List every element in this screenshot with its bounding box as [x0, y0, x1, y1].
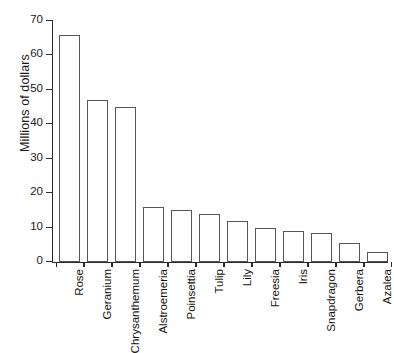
bar — [59, 35, 80, 262]
x-tick-label-text: Azalea — [381, 269, 393, 304]
y-tick: 30 — [46, 158, 52, 159]
y-tick: 60 — [46, 54, 52, 55]
x-tick-label-text: Gerbera — [353, 269, 365, 311]
x-tick-label-text: Tulip — [213, 269, 225, 294]
y-tick-label: 10 — [30, 220, 43, 232]
x-tick-label-text: Lily — [241, 269, 253, 286]
x-tick-label: Gerbera — [353, 227, 365, 269]
x-tick-label-text: Geranium — [101, 269, 113, 320]
x-tick-label: Chrysanthemum — [129, 185, 141, 269]
plot-area: 010203040506070 RoseGeraniumChrysanthemu… — [52, 21, 388, 262]
y-axis-line — [52, 20, 53, 263]
y-tick-label: 60 — [30, 47, 43, 59]
x-tick-label-text: Alstroemeria — [157, 269, 169, 334]
x-tick-label-text: Snapdragon — [325, 269, 337, 332]
y-tick-label: 40 — [30, 116, 43, 128]
y-tick: 40 — [46, 123, 52, 124]
y-tick: 20 — [46, 192, 52, 193]
y-tick: 10 — [46, 227, 52, 228]
y-tick-label: 70 — [30, 13, 43, 25]
x-tick-label: Azalea — [381, 234, 393, 269]
x-tick-label-text: Iris — [297, 269, 309, 284]
x-tick-label: Poinsettia — [185, 218, 197, 269]
x-tick-label: Alstroemeria — [157, 204, 169, 269]
x-tick-label: Lily — [241, 252, 253, 269]
y-tick-label: 50 — [30, 82, 43, 94]
x-tick-label: Freesia — [269, 231, 281, 269]
x-tick-label: Iris — [297, 254, 309, 269]
bar-chart: Millions of dollars 010203040506070 Rose… — [0, 0, 394, 353]
y-tick: 70 — [46, 20, 52, 21]
x-tick — [56, 262, 57, 267]
x-tick-label-text: Rose — [73, 269, 85, 296]
y-tick-label: 20 — [30, 185, 43, 197]
x-tick-label-text: Chrysanthemum — [129, 269, 141, 353]
x-tick-label: Rose — [73, 242, 85, 269]
x-tick-label: Snapdragon — [325, 206, 337, 269]
x-tick-label: Geranium — [101, 219, 113, 270]
x-tick-label: Tulip — [213, 245, 225, 270]
y-tick: 0 — [46, 261, 52, 262]
y-tick: 50 — [46, 89, 52, 90]
y-axis-title: Millions of dollars — [18, 8, 32, 198]
x-tick-label-text: Poinsettia — [185, 269, 197, 320]
y-tick-label: 30 — [30, 151, 43, 163]
y-tick-label: 0 — [37, 254, 43, 266]
x-tick-label-text: Freesia — [269, 269, 281, 307]
